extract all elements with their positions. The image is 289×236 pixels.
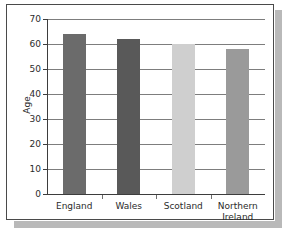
y-axis-tick-label: 30 [30,115,41,124]
y-axis-tick-label: 70 [30,15,41,24]
y-axis-tick [43,144,48,145]
x-axis-label: England [56,201,93,212]
y-axis-tick-label: 50 [30,65,41,74]
x-axis-label: Scotland [164,201,203,212]
bar [172,44,195,194]
y-axis-tick [43,94,48,95]
y-axis-tick-label: 60 [30,40,41,49]
y-axis-tick-label: 10 [30,165,41,174]
bar-chart-figure: Age 010203040506070 EnglandWalesScotland… [6,4,274,220]
bar [117,39,140,194]
y-axis-tick [43,44,48,45]
y-axis-tick [43,119,48,120]
plot-area: 010203040506070 EnglandWalesScotlandNort… [47,19,265,195]
y-axis-tick [43,19,48,20]
x-axis-label: Wales [115,201,142,212]
x-axis-tick [102,195,103,199]
y-axis-tick [43,69,48,70]
y-axis-tick-label: 0 [35,190,41,199]
y-axis-tick-label: 20 [30,140,41,149]
x-axis-tick [156,195,157,199]
bar [63,34,86,194]
gridline [48,19,265,20]
y-axis-tick [43,194,48,195]
bar [226,49,249,194]
y-axis-title: Age [22,96,32,113]
x-axis-tick [211,195,212,199]
y-axis-tick [43,169,48,170]
x-axis-label: Northern Ireland [218,201,258,223]
figure-shadow-right [275,10,282,224]
y-axis-tick-label: 40 [30,90,41,99]
